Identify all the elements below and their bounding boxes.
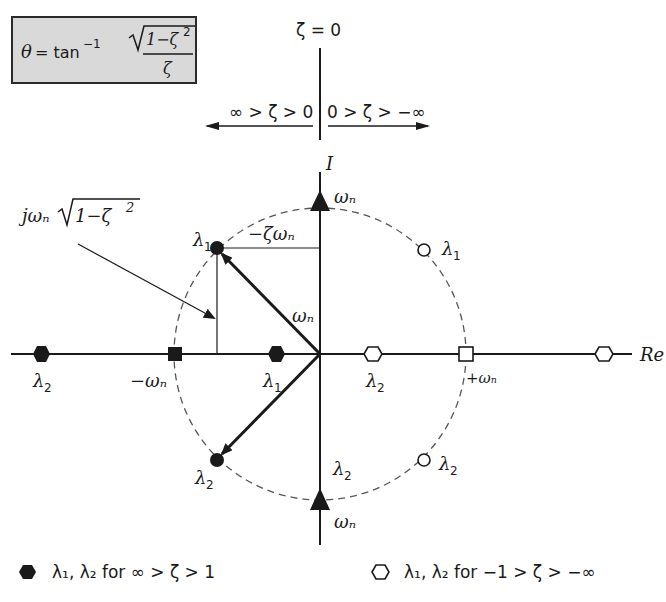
lambda2-open-hexagon (364, 347, 382, 361)
lambda1-upper-label: λ 1 (192, 229, 212, 254)
svg-text:−1: −1 (83, 37, 101, 51)
svg-text:λ: λ (332, 458, 344, 479)
far-left-lambda2-label: λ 2 (32, 370, 52, 395)
svg-text:λ: λ (192, 229, 204, 250)
lambda1-filled-circle (210, 241, 224, 255)
svg-text:1−ζ: 1−ζ (75, 205, 113, 226)
vector-omega-n-label: ωₙ (292, 305, 314, 326)
svg-text:θ: θ (21, 41, 32, 62)
imag-component-annotation: jωₙ 1−ζ 2 (18, 199, 140, 226)
lambda2-open-circle (418, 454, 430, 466)
far-right-open-hexagon (595, 347, 613, 361)
root-locus-diagram: ζ = 0 ∞ > ζ > 0 0 > ζ > −∞ I Re ωₙ ωₙ ωₙ… (0, 0, 666, 602)
real-axis-label: Re (639, 344, 664, 365)
svg-text:2: 2 (377, 381, 385, 395)
lambda1-open-circle (418, 244, 430, 256)
svg-text:jωₙ: jωₙ (18, 205, 50, 226)
svg-text:λ: λ (441, 238, 453, 259)
svg-text:2: 2 (125, 200, 134, 215)
legend-filled-hexagon-icon (19, 565, 36, 579)
pos-omega-open-square (459, 347, 473, 361)
svg-text:1−ζ: 1−ζ (146, 30, 180, 49)
pos-omega-n-label: +ωₙ (466, 369, 497, 387)
lambda2-filled-circle (210, 453, 224, 467)
svg-text:λ: λ (194, 467, 206, 488)
theta-formula-box: θ = tan −1 1−ζ 2 ζ (11, 16, 197, 84)
imag-axis-label: I (325, 153, 334, 174)
svg-text:λ: λ (262, 370, 274, 391)
svg-text:= tan: = tan (35, 43, 80, 62)
legend-filled-text: λ₁, λ₂ for ∞ > ζ > 1 (52, 562, 215, 582)
vector-lambda2 (222, 354, 320, 454)
vector-lambda1 (222, 254, 320, 354)
svg-text:ζ: ζ (163, 59, 173, 78)
svg-text:2: 2 (44, 381, 52, 395)
theta-formula: θ = tan −1 1−ζ 2 ζ (13, 18, 195, 82)
svg-text:2: 2 (450, 464, 458, 478)
hex-lambda1-label: λ 1 (262, 370, 282, 395)
zeta-range-indicator (207, 48, 428, 140)
svg-text:2: 2 (183, 25, 191, 39)
legend-open-text: λ₁, λ₂ for −1 > ζ > −∞ (404, 562, 596, 582)
svg-text:λ: λ (438, 453, 450, 474)
svg-text:1: 1 (453, 249, 461, 263)
imag-axis-lambda2-label: λ 2 (332, 458, 352, 483)
svg-text:λ: λ (365, 370, 377, 391)
lambda1-open-label: λ 1 (441, 238, 461, 263)
svg-text:λ: λ (32, 370, 44, 391)
svg-text:2: 2 (206, 478, 214, 492)
real-component-label: −ζωₙ (248, 223, 295, 244)
neg-omega-n-label: −ωₙ (130, 370, 167, 391)
triangle-top-marker (310, 190, 330, 211)
right-range-label: 0 > ζ > −∞ (327, 102, 426, 122)
lambda1-filled-hexagon (268, 346, 285, 362)
svg-text:1: 1 (204, 240, 212, 254)
far-left-filled-hexagon (33, 346, 50, 362)
triangle-bottom-marker (310, 488, 330, 510)
svg-text:1: 1 (274, 381, 282, 395)
lambda2-open-label: λ 2 (438, 453, 458, 478)
hex-lambda2-label: λ 2 (365, 370, 385, 395)
neg-omega-filled-square (168, 347, 182, 361)
lambda2-lower-label: λ 2 (194, 467, 214, 492)
zeta-zero-label: ζ = 0 (296, 20, 341, 40)
svg-text:2: 2 (344, 469, 352, 483)
bottom-omega-n-label: ωₙ (334, 511, 356, 532)
legend-open-hexagon-icon (372, 565, 389, 579)
left-range-label: ∞ > ζ > 0 (229, 102, 313, 122)
top-omega-n-label: ωₙ (334, 186, 356, 207)
